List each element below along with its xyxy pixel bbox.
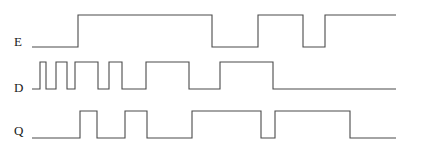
waveform-d xyxy=(32,62,396,89)
timing-diagram: E D Q xyxy=(0,0,424,155)
waveform-q xyxy=(32,111,396,138)
waveform-e xyxy=(32,15,396,47)
signal-label-e: E xyxy=(14,35,22,48)
signal-label-d: D xyxy=(14,81,23,94)
waveform-traces xyxy=(32,15,396,138)
signal-label-q: Q xyxy=(14,124,23,137)
waveform-canvas xyxy=(0,0,424,155)
